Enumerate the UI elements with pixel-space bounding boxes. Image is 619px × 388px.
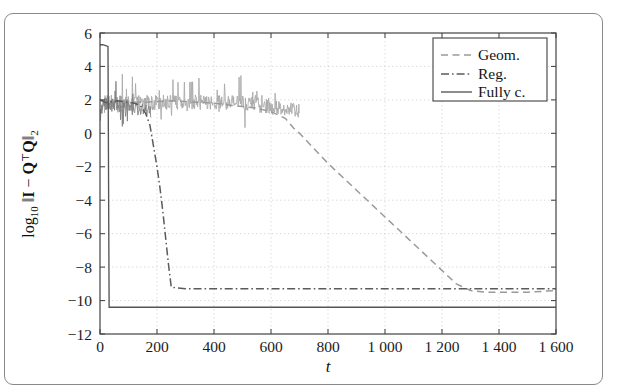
ylabel-log-sub: 10 (28, 206, 40, 218)
x-tick-label: 1 000 (368, 338, 403, 355)
y-tick-label: 0 (84, 125, 92, 142)
x-axis-title: t (326, 357, 332, 376)
y-tick-label: 4 (84, 58, 92, 75)
series-geom-noise (100, 74, 299, 128)
y-tick-label: −12 (68, 326, 92, 343)
legend-label-reg: Reg. (478, 65, 507, 82)
x-tick-label: 1 400 (482, 338, 517, 355)
y-tick-label: 2 (84, 91, 92, 108)
x-tick-label: 0 (96, 338, 104, 355)
ylabel-q-transpose: Q (20, 162, 37, 174)
y-tick-labels: 6420−2−4−6−8−10−12 (68, 25, 93, 343)
y-tick-label: 6 (84, 25, 92, 42)
svg-text:log10 ‖I − Q⊤Q‖2: log10 ‖I − Q⊤Q‖2 (20, 130, 40, 238)
ylabel-minus: − (20, 179, 37, 188)
y-tick-label: −2 (76, 158, 93, 175)
x-tick-label: 1 600 (539, 338, 574, 355)
y-axis-title: log10 ‖I − Q⊤Q‖2 (20, 130, 40, 238)
x-tick-label: 800 (316, 338, 340, 355)
x-tick-label: 200 (145, 338, 169, 355)
x-tick-label: 400 (202, 338, 226, 355)
ylabel-norm-sub: 2 (28, 130, 40, 136)
y-tick-label: −4 (76, 192, 93, 209)
x-tick-labels: 02004006008001 0001 2001 4001 600 (96, 338, 574, 355)
y-tick-label: −8 (76, 259, 93, 276)
y-tick-label: −10 (68, 292, 92, 309)
x-tick-label: 600 (259, 338, 283, 355)
legend-label-fully-c: Fully c. (478, 83, 525, 100)
y-tick-label: −6 (76, 225, 93, 242)
legend-label-geom: Geom. (478, 46, 520, 63)
chart-canvas: 02004006008001 0001 2001 4001 600 6420−2… (0, 0, 619, 388)
ylabel-q: Q (20, 140, 37, 152)
ylabel-log: log (20, 217, 38, 237)
x-tick-label: 1 200 (425, 338, 460, 355)
chart-svg: 02004006008001 0001 2001 4001 600 6420−2… (0, 0, 619, 388)
ylabel-transpose-sup: ⊤ (20, 153, 31, 162)
legend: Geom. Reg. Fully c. (433, 38, 547, 101)
